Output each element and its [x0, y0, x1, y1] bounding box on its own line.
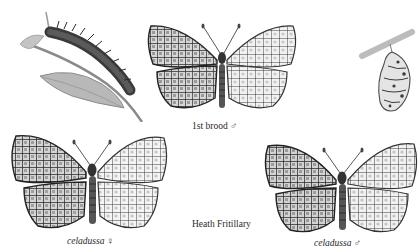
caterpillar-icon: [12, 4, 147, 122]
pupa-illustration: [358, 26, 420, 116]
butterfly-icon: [262, 140, 420, 236]
butterfly-brood-male: [143, 22, 301, 116]
butterfly-celadussa-female: [8, 132, 168, 232]
species-title: Heath Fritillary: [192, 219, 251, 229]
illustration-plate: 1st brood ♂: [0, 0, 420, 251]
butterfly-icon: [143, 22, 301, 116]
label-celadussa-female: celadussa ♀: [67, 236, 114, 246]
butterfly-celadussa-male: [262, 140, 420, 236]
caterpillar-illustration: [12, 4, 147, 122]
label-brood-male: 1st brood ♂: [192, 121, 237, 131]
pupa-icon: [358, 26, 420, 116]
butterfly-icon: [8, 132, 168, 232]
label-celadussa-male: celadussa ♂: [314, 238, 361, 248]
